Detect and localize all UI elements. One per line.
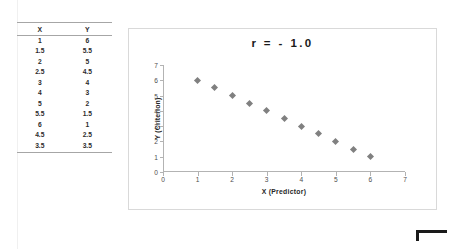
y-axis-tick-label: 2	[154, 138, 158, 145]
cell-x: 2	[17, 57, 63, 67]
y-axis-tick	[160, 80, 164, 81]
y-axis-label-text: Y (Criterion)	[154, 98, 161, 140]
table-row: 4.52.5	[17, 130, 112, 140]
chart-title: r = - 1.0	[129, 37, 436, 49]
x-axis-tick	[267, 172, 268, 176]
table-row: 5.51.5	[17, 109, 112, 119]
table-row: 16	[17, 36, 112, 47]
corner-bracket-icon	[416, 230, 447, 241]
data-point	[246, 100, 253, 107]
table-row: 1.55.5	[17, 46, 112, 56]
xy-data-table: X Y 161.55.5252.54.53443525.51.5614.52.5…	[17, 22, 112, 153]
data-point	[280, 115, 287, 122]
data-table-container: X Y 161.55.5252.54.53443525.51.5614.52.5…	[17, 22, 112, 153]
cell-x: 2.5	[17, 67, 63, 77]
cell-y: 3.5	[63, 141, 112, 153]
y-axis-tick-label: 1	[154, 153, 158, 160]
cell-y: 4	[63, 78, 112, 88]
y-axis-tick-label: 6	[154, 77, 158, 84]
cell-y: 2.5	[63, 130, 112, 140]
table-row: 3.53.5	[17, 141, 112, 153]
cell-y: 5	[63, 57, 112, 67]
table-header-row: X Y	[17, 23, 112, 36]
table-header: X Y	[17, 23, 112, 36]
cell-x: 1.5	[17, 46, 63, 56]
y-axis-tick	[160, 141, 164, 142]
table-body: 161.55.5252.54.53443525.51.5614.52.53.53…	[17, 36, 112, 153]
data-point	[367, 153, 374, 160]
cell-x: 4.5	[17, 130, 63, 140]
data-point	[315, 130, 322, 137]
cell-y: 4.5	[63, 67, 112, 77]
table-row: 34	[17, 78, 112, 88]
column-header-y: Y	[63, 23, 112, 36]
data-point	[194, 77, 201, 84]
y-axis-tick-label: 0	[154, 169, 158, 176]
table-row: 61	[17, 120, 112, 130]
x-axis-tick-label: 7	[403, 176, 407, 183]
cell-x: 5	[17, 99, 63, 109]
x-axis-tick-label: 4	[299, 176, 303, 183]
table-row: 25	[17, 57, 112, 67]
x-axis-tick	[370, 172, 371, 176]
x-axis-tick	[336, 172, 337, 176]
data-point	[229, 92, 236, 99]
x-axis-label: X (Predictor)	[163, 188, 405, 195]
x-axis-tick	[198, 172, 199, 176]
cell-y: 1	[63, 120, 112, 130]
cell-x: 5.5	[17, 109, 63, 119]
cell-y: 5.5	[63, 46, 112, 56]
y-axis-tick	[160, 96, 164, 97]
corner-bracket-vertical	[416, 230, 419, 241]
cell-x: 6	[17, 120, 63, 130]
x-axis-tick	[405, 172, 406, 176]
data-point	[298, 123, 305, 130]
y-axis-tick-label: 7	[154, 62, 158, 69]
x-axis-tick	[232, 172, 233, 176]
cell-x: 3	[17, 78, 63, 88]
cell-x: 1	[17, 36, 63, 47]
y-axis-tick-label: 4	[154, 107, 158, 114]
x-axis-tick-label: 1	[196, 176, 200, 183]
table-row: 2.54.5	[17, 67, 112, 77]
scatter-chart: r = - 1.0 Y (Criterion) 01234567 0123456…	[128, 28, 437, 210]
data-point	[211, 84, 218, 91]
x-axis-tick-label: 6	[369, 176, 373, 183]
data-point	[263, 107, 270, 114]
plot-area: 01234567 01234567	[163, 65, 405, 172]
y-axis-tick	[160, 111, 164, 112]
x-axis-tick-label: 5	[334, 176, 338, 183]
cell-y: 3	[63, 88, 112, 98]
cell-x: 4	[17, 88, 63, 98]
x-axis-tick	[163, 172, 164, 176]
data-point	[332, 138, 339, 145]
x-axis-tick	[301, 172, 302, 176]
x-axis-line	[163, 171, 405, 172]
data-point	[350, 146, 357, 153]
table-row: 52	[17, 99, 112, 109]
x-axis-tick-label: 3	[265, 176, 269, 183]
y-axis-tick	[160, 157, 164, 158]
y-axis-tick	[160, 126, 164, 127]
column-header-x: X	[17, 23, 63, 36]
x-axis-tick-label: 2	[230, 176, 234, 183]
y-axis-tick-label: 3	[154, 123, 158, 130]
cell-y: 1.5	[63, 109, 112, 119]
x-axis-tick-label: 0	[161, 176, 165, 183]
corner-bracket-horizontal	[416, 230, 447, 233]
y-axis-tick-label: 5	[154, 92, 158, 99]
y-axis-tick	[160, 65, 164, 66]
cell-x: 3.5	[17, 141, 63, 153]
table-row: 43	[17, 88, 112, 98]
cell-y: 6	[63, 36, 112, 47]
cell-y: 2	[63, 99, 112, 109]
y-axis-line	[163, 65, 164, 172]
